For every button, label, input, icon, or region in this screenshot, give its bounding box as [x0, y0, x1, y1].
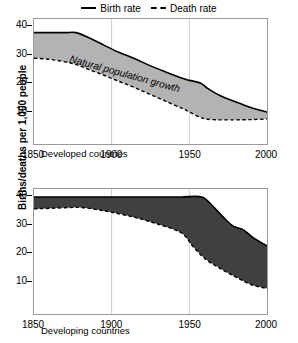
y-tick-label-10: 10 [16, 106, 27, 116]
y-tick-mark-10 [27, 111, 32, 112]
plot-area-developed: Natural population growth [33, 18, 268, 145]
y-axis-labels-bottom: 10 20 30 40 [0, 186, 31, 317]
x-axis-labels-top: 1850 1900 1950 2000 [0, 147, 298, 163]
y-axis-labels-top: 10 20 30 40 [0, 16, 31, 147]
x-tick-label-1900-bottom: 1900 [100, 319, 122, 331]
legend-label-birth-rate: Birth rate [100, 3, 141, 14]
y-tick-label-20-bottom: 20 [16, 247, 27, 257]
x-axis-labels-bottom: 1850 1900 1950 2000 [0, 317, 298, 333]
plot-area-developing [33, 188, 268, 315]
y-tick-mark-40-bottom [27, 195, 32, 196]
panel-developing-countries: 10 20 30 40 Developing countries 1850 19… [0, 186, 298, 343]
y-tick-label-40: 40 [16, 20, 27, 30]
legend-entry-death-rate: Death rate [151, 3, 217, 14]
band-natural-population-growth-developing [34, 196, 267, 288]
x-tick-label-1950: 1950 [179, 149, 201, 161]
y-tick-mark-20-bottom [27, 252, 32, 253]
y-tick-label-30-bottom: 30 [16, 219, 27, 229]
solid-line-icon [81, 7, 96, 9]
y-tick-mark-40 [27, 25, 32, 26]
figure-root: Birth rate Death rate Births/deaths per … [0, 0, 298, 343]
y-tick-mark-30-bottom [27, 224, 32, 225]
y-tick-label-20: 20 [16, 77, 27, 87]
legend-entry-birth-rate: Birth rate [81, 3, 141, 14]
y-tick-mark-20 [27, 82, 32, 83]
y-tick-label-40-bottom: 40 [16, 190, 27, 200]
x-tick-label-2000-bottom: 2000 [255, 319, 277, 331]
y-tick-label-10-bottom: 10 [16, 276, 27, 286]
y-tick-mark-10-bottom [27, 281, 32, 282]
x-tick-label-2000: 2000 [255, 149, 277, 161]
legend-label-death-rate: Death rate [170, 3, 217, 14]
x-tick-label-1850-bottom: 1850 [22, 319, 44, 331]
dashed-line-icon [151, 7, 166, 9]
x-tick-label-1900: 1900 [100, 149, 122, 161]
y-tick-label-30: 30 [16, 49, 27, 59]
panel-developed-countries: 10 20 30 40 Natural population growth De… [0, 16, 298, 166]
chart-legend: Birth rate Death rate [0, 0, 298, 16]
x-tick-label-1850: 1850 [22, 149, 44, 161]
y-tick-mark-30 [27, 54, 32, 55]
plot-svg-developing [34, 189, 267, 314]
x-tick-label-1950-bottom: 1950 [179, 319, 201, 331]
